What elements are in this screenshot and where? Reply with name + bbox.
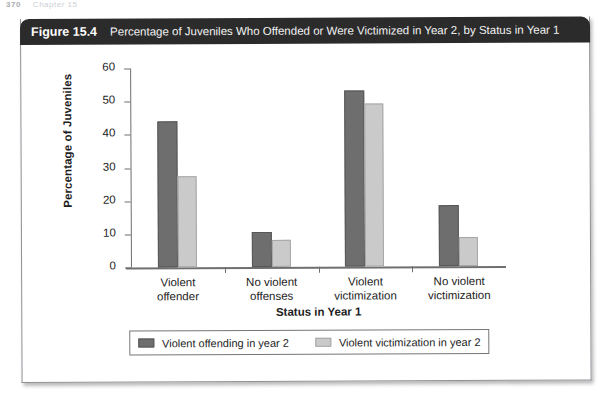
bar-series-1	[251, 232, 271, 267]
bar-series-1	[439, 205, 459, 266]
legend-swatch-series-2	[315, 338, 331, 347]
y-axis-tick-label: 20	[103, 193, 116, 205]
page-number: 370	[6, 0, 21, 9]
x-axis-category-label: Violentvictimization	[319, 274, 413, 302]
y-axis-title: Percentage of Juveniles	[61, 46, 74, 236]
bar-series-2	[459, 237, 478, 266]
x-axis-category-label: Violentoffender	[131, 275, 225, 303]
y-axis-tick: 40	[124, 135, 130, 136]
figure-title: Percentage of Juveniles Who Offended or …	[110, 24, 559, 38]
running-head: Chapter 15	[33, 0, 78, 9]
chart-legend: Violent offending in year 2 Violent vict…	[129, 329, 489, 356]
bar-series-1	[345, 91, 366, 267]
x-axis-category-label-line: victimization	[319, 288, 413, 302]
x-axis-title: Status in Year 1	[131, 305, 506, 319]
figure-caption-bar: Figure 15.4 Percentage of Juveniles Who …	[20, 17, 590, 45]
x-axis-category-label-line: No violent	[412, 274, 506, 288]
x-axis-category-label-line: No violent	[225, 275, 319, 289]
chart-plot-area: Percentage of Juveniles 0102030405060Vio…	[20, 43, 591, 383]
legend-item-violent-victimization: Violent victimization in year 2	[315, 335, 481, 348]
y-axis-tick: 10	[125, 234, 131, 235]
x-axis-category-label-line: victimization	[412, 288, 506, 302]
page-header-remnant: 370Chapter 15	[6, 0, 186, 12]
x-axis-category-label: No violentvictimization	[412, 274, 506, 302]
y-axis-tick-label: 40	[103, 127, 116, 139]
y-axis-tick: 0	[125, 268, 131, 269]
figure-label: Figure 15.4	[31, 25, 97, 39]
x-axis-category-label-line: Violent	[131, 275, 225, 289]
x-axis-category-label: No violentoffenses	[225, 275, 319, 303]
bar-series-1	[157, 121, 178, 267]
bar-series-2	[177, 177, 196, 268]
y-axis-tick-label: 60	[102, 61, 115, 73]
legend-label-series-1: Violent offending in year 2	[162, 336, 289, 349]
legend-item-violent-offending: Violent offending in year 2	[138, 336, 289, 349]
legend-swatch-series-1	[138, 338, 154, 347]
bar-series-2	[271, 240, 290, 267]
y-axis-tick-label: 0	[110, 260, 116, 272]
y-axis-tick: 60	[124, 69, 130, 70]
y-axis-tick-label: 10	[103, 226, 116, 238]
x-axis-category-label-line: offenses	[225, 289, 319, 303]
y-axis-tick: 50	[124, 102, 130, 103]
y-axis-tick: 30	[125, 168, 131, 169]
x-axis-tick	[225, 267, 226, 273]
x-axis-tick	[318, 267, 319, 273]
x-axis-tick	[412, 266, 413, 272]
legend-label-series-2: Violent victimization in year 2	[339, 335, 481, 348]
bar-series-2	[365, 104, 385, 267]
x-axis-category-label-line: Violent	[319, 274, 413, 288]
x-axis-category-label-line: offender	[131, 289, 225, 303]
y-axis-tick: 20	[125, 201, 131, 202]
chart-axes: 0102030405060ViolentoffenderNo violentof…	[130, 67, 506, 268]
y-axis-tick-label: 30	[103, 160, 116, 172]
y-axis-tick-label: 50	[102, 94, 115, 106]
